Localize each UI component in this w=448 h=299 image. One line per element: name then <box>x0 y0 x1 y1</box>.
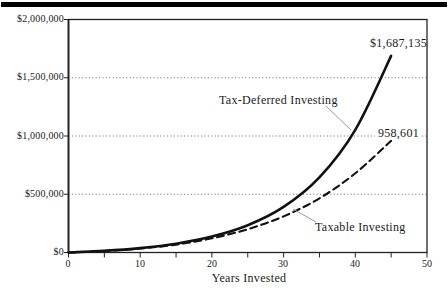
x-tick-label-20: 20 <box>192 258 232 270</box>
y-tick-label-2m: $2,000,000 <box>17 13 64 25</box>
taxable-end-value: 958,601 <box>375 126 422 140</box>
tax-deferred-end-value: $1,687,135 <box>370 36 427 50</box>
x-tick-label-0: 0 <box>48 258 88 270</box>
x-tick-label-30: 30 <box>263 258 303 270</box>
x-tick-label-10: 10 <box>120 258 160 270</box>
x-axis-title: Years Invested <box>169 271 329 285</box>
taxable-curve <box>69 141 392 253</box>
taxable-leader-line <box>293 209 316 222</box>
y-tick-label-500k: $500,000 <box>25 188 64 200</box>
chart-figure: $0 $500,000 $1,000,000 $1,500,000 $2,000… <box>0 0 448 299</box>
y-tick-label-0: $0 <box>54 246 64 258</box>
y-tick-label-1m: $1,000,000 <box>17 130 64 142</box>
x-tick-label-50: 50 <box>407 258 447 270</box>
x-tick-label-40: 40 <box>335 258 375 270</box>
tax-deferred-series-label: Tax-Deferred Investing <box>219 93 338 107</box>
taxable-series-label: Taxable Investing <box>315 220 406 234</box>
y-tick-label-1-5m: $1,500,000 <box>17 71 64 83</box>
plot-box <box>69 20 428 253</box>
tax-deferred-leader-line <box>326 106 351 130</box>
